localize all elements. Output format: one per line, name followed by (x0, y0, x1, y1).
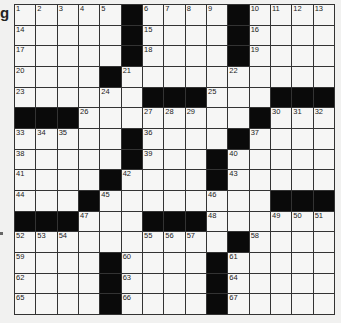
grid-cell[interactable] (143, 191, 163, 211)
grid-cell[interactable] (164, 67, 184, 87)
grid-cell[interactable] (143, 274, 163, 294)
grid-cell[interactable] (207, 232, 227, 252)
grid-cell[interactable]: 42 (122, 170, 142, 190)
grid-cell[interactable] (292, 232, 312, 252)
grid-cell[interactable]: 11 (271, 5, 291, 25)
grid-cell[interactable] (314, 67, 334, 87)
grid-cell[interactable] (271, 150, 291, 170)
grid-cell[interactable] (292, 274, 312, 294)
grid-cell[interactable] (100, 150, 120, 170)
grid-cell[interactable] (100, 108, 120, 128)
grid-cell[interactable] (271, 294, 291, 314)
grid-cell[interactable] (79, 150, 99, 170)
grid-cell[interactable]: 15 (143, 26, 163, 46)
grid-cell[interactable]: 65 (15, 294, 35, 314)
grid-cell[interactable]: 4 (79, 5, 99, 25)
grid-cell[interactable] (164, 170, 184, 190)
grid-cell[interactable] (250, 170, 270, 190)
grid-cell[interactable]: 66 (122, 294, 142, 314)
grid-cell[interactable] (314, 129, 334, 149)
grid-cell[interactable]: 56 (164, 232, 184, 252)
grid-cell[interactable]: 19 (250, 46, 270, 66)
grid-cell[interactable]: 9 (207, 5, 227, 25)
grid-cell[interactable]: 20 (15, 67, 35, 87)
grid-cell[interactable] (292, 294, 312, 314)
grid-cell[interactable] (79, 26, 99, 46)
grid-cell[interactable] (250, 150, 270, 170)
grid-cell[interactable] (36, 191, 56, 211)
grid-cell[interactable] (58, 46, 78, 66)
grid-cell[interactable] (186, 170, 206, 190)
grid-cell[interactable] (271, 232, 291, 252)
grid-cell[interactable]: 30 (271, 108, 291, 128)
grid-cell[interactable] (164, 46, 184, 66)
grid-cell[interactable]: 7 (164, 5, 184, 25)
grid-cell[interactable] (79, 232, 99, 252)
grid-cell[interactable] (228, 212, 248, 232)
grid-cell[interactable]: 1 (15, 5, 35, 25)
grid-cell[interactable]: 10 (250, 5, 270, 25)
grid-cell[interactable]: 3 (58, 5, 78, 25)
grid-cell[interactable] (36, 253, 56, 273)
grid-cell[interactable]: 59 (15, 253, 35, 273)
grid-cell[interactable]: 48 (207, 212, 227, 232)
grid-cell[interactable] (79, 253, 99, 273)
grid-cell[interactable] (250, 253, 270, 273)
grid-cell[interactable] (58, 191, 78, 211)
grid-cell[interactable] (58, 170, 78, 190)
grid-cell[interactable] (58, 67, 78, 87)
grid-cell[interactable]: 55 (143, 232, 163, 252)
grid-cell[interactable]: 44 (15, 191, 35, 211)
grid-cell[interactable] (271, 67, 291, 87)
grid-cell[interactable] (143, 253, 163, 273)
grid-cell[interactable]: 35 (58, 129, 78, 149)
grid-cell[interactable] (36, 88, 56, 108)
grid-cell[interactable]: 67 (228, 294, 248, 314)
grid-cell[interactable]: 23 (15, 88, 35, 108)
grid-cell[interactable]: 49 (271, 212, 291, 232)
grid-cell[interactable] (250, 294, 270, 314)
grid-cell[interactable] (100, 46, 120, 66)
grid-cell[interactable] (79, 88, 99, 108)
grid-cell[interactable]: 25 (207, 88, 227, 108)
grid-cell[interactable]: 41 (15, 170, 35, 190)
grid-cell[interactable] (314, 150, 334, 170)
grid-cell[interactable]: 62 (15, 274, 35, 294)
grid-cell[interactable]: 14 (15, 26, 35, 46)
grid-cell[interactable]: 64 (228, 274, 248, 294)
grid-cell[interactable] (314, 170, 334, 190)
grid-cell[interactable] (143, 67, 163, 87)
grid-cell[interactable] (122, 212, 142, 232)
grid-cell[interactable] (79, 294, 99, 314)
grid-cell[interactable] (58, 26, 78, 46)
grid-cell[interactable] (250, 191, 270, 211)
grid-cell[interactable] (271, 253, 291, 273)
grid-cell[interactable]: 22 (228, 67, 248, 87)
grid-cell[interactable]: 12 (292, 5, 312, 25)
grid-cell[interactable]: 51 (314, 212, 334, 232)
grid-cell[interactable]: 28 (164, 108, 184, 128)
grid-cell[interactable] (58, 253, 78, 273)
grid-cell[interactable] (207, 129, 227, 149)
grid-cell[interactable] (36, 26, 56, 46)
grid-cell[interactable]: 8 (186, 5, 206, 25)
grid-cell[interactable]: 47 (79, 212, 99, 232)
grid-cell[interactable] (79, 46, 99, 66)
grid-cell[interactable] (250, 212, 270, 232)
grid-cell[interactable] (36, 170, 56, 190)
grid-cell[interactable] (314, 232, 334, 252)
grid-cell[interactable] (79, 170, 99, 190)
grid-cell[interactable] (122, 108, 142, 128)
grid-cell[interactable] (79, 129, 99, 149)
grid-cell[interactable]: 16 (250, 26, 270, 46)
grid-cell[interactable]: 36 (143, 129, 163, 149)
grid-cell[interactable] (228, 88, 248, 108)
grid-cell[interactable] (207, 108, 227, 128)
grid-cell[interactable]: 24 (100, 88, 120, 108)
grid-cell[interactable] (164, 129, 184, 149)
grid-cell[interactable]: 43 (228, 170, 248, 190)
grid-cell[interactable] (314, 253, 334, 273)
grid-cell[interactable] (186, 294, 206, 314)
grid-cell[interactable]: 6 (143, 5, 163, 25)
grid-cell[interactable]: 2 (36, 5, 56, 25)
